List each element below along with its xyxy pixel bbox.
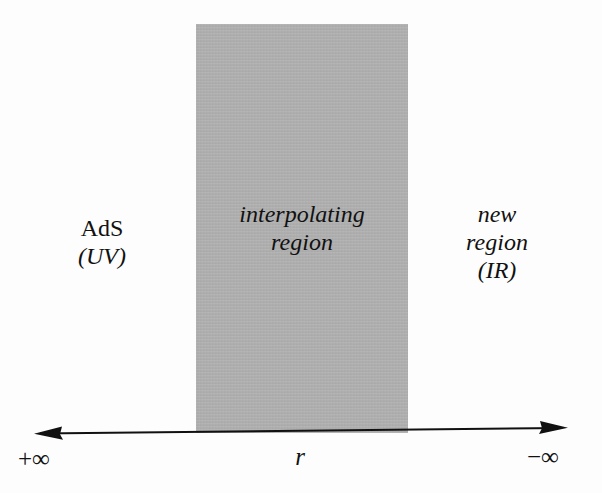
axis-arrowhead-right-icon (539, 421, 568, 434)
axis-arrowhead-left-icon (34, 427, 63, 440)
interpolating-region-name-line1: interpolating (186, 200, 418, 228)
axis-variable-label: r (270, 443, 330, 471)
new-region-scale: (IR) (432, 256, 562, 284)
new-region-label-group: new region (IR) (432, 200, 562, 284)
ads-region-scale: (UV) (42, 242, 162, 270)
ads-region-name: AdS (42, 214, 162, 242)
ads-region-label-group: AdS (UV) (42, 214, 162, 270)
axis-endpoint-negative-infinity: −∞ (527, 443, 559, 471)
interpolating-region-name-line2: region (186, 228, 418, 256)
new-region-name-line2: region (432, 228, 562, 256)
interpolating-region-label-group: interpolating region (186, 200, 418, 256)
axis-line (40, 428, 562, 434)
radial-flow-diagram: AdS (UV) interpolating region new region… (0, 0, 602, 493)
new-region-name-line1: new (432, 200, 562, 228)
radial-axis: +∞ r −∞ (0, 405, 602, 493)
axis-endpoint-positive-infinity: +∞ (18, 445, 50, 473)
